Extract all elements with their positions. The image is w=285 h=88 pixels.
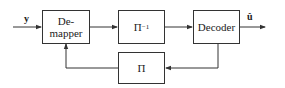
demapper-block: De- mapper	[42, 10, 90, 44]
interleaver-label: Π	[138, 62, 146, 74]
decoder-block: Decoder	[193, 10, 240, 44]
interleaver-to-demapper-arrow	[66, 44, 118, 68]
deinterleaver-block: Π−1	[118, 10, 165, 44]
deinterleaver-label: Π	[134, 21, 142, 33]
demapper-label-line1: De-	[50, 15, 83, 27]
output-label-u-hat: û	[247, 11, 253, 22]
input-label-y: y	[24, 13, 29, 24]
demapper-label-line2: mapper	[50, 27, 83, 39]
deinterleaver-superscript: −1	[142, 21, 149, 33]
decoder-to-interleaver-arrow	[166, 43, 218, 68]
decoder-label: Decoder	[198, 21, 235, 33]
interleaver-block: Π	[118, 52, 165, 84]
